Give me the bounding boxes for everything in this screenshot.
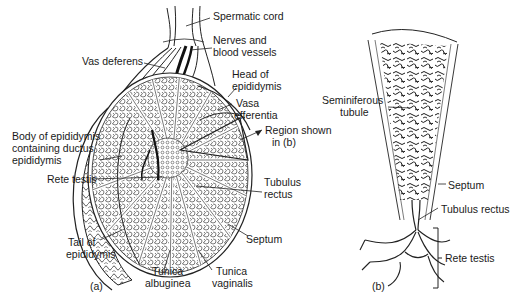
label-septum-b: Septum: [448, 179, 484, 191]
label-spermatic-cord: Spermatic cord: [213, 10, 284, 22]
label-tail-line2: epididymis: [66, 248, 116, 260]
label-albuginea-line2: albuginea: [145, 277, 191, 289]
label-tubulus-line2: rectus: [264, 188, 293, 200]
label-vasa-line2: efferentia: [234, 109, 278, 121]
label-vaginalis-line1: Tunica: [216, 265, 247, 277]
label-tubulus-rectus-b: Tubulus rectus: [441, 203, 509, 215]
panel-label-a: (a): [90, 280, 103, 292]
label-rete-testis-a: Rete testis: [47, 173, 97, 185]
label-vasa-line1: Vasa: [236, 97, 259, 109]
testis-anatomy-figure: Spermatic cord Nerves and blood vessels …: [0, 0, 520, 297]
rete-network: [360, 230, 450, 286]
label-nerves-line2: blood vessels: [213, 46, 277, 58]
label-head-line1: Head of: [232, 68, 269, 80]
label-albuginea-line1: Tunica: [152, 265, 183, 277]
label-vas-deferens: Vas deferens: [82, 55, 143, 67]
label-tubulus-line1: Tubulus: [264, 176, 301, 188]
label-nerves-line1: Nerves and: [213, 34, 267, 46]
label-head-line2: epididymis: [232, 80, 282, 92]
label-vaginalis-line2: vaginalis: [212, 277, 253, 289]
label-rete-testis-b: Rete testis: [445, 252, 495, 264]
label-region-line2: in (b): [272, 136, 296, 148]
label-body-line2: containing ductus: [12, 142, 94, 154]
label-seminiferous-line2: tubule: [340, 106, 369, 118]
panel-label-b: (b): [372, 280, 385, 292]
label-body-line1: Body of epididymis: [12, 130, 100, 142]
label-seminiferous-line1: Seminiferous: [322, 94, 383, 106]
label-tail-line1: Tail of: [68, 236, 95, 248]
seminiferous-section-drawing: [360, 30, 458, 289]
label-region-line1: Region shown: [265, 124, 332, 136]
label-septum-a: Septum: [246, 233, 282, 245]
label-body-line3: epididymis: [12, 154, 62, 166]
